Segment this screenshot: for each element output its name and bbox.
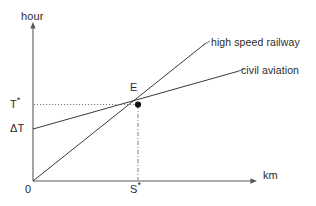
s-star-asterisk: * xyxy=(137,180,141,190)
x-axis-label: km xyxy=(263,169,278,181)
series-label-civil-aviation: civil aviation xyxy=(241,64,299,76)
t-star-asterisk: * xyxy=(17,95,21,105)
equilibrium-point-label: E xyxy=(130,81,137,93)
series-line-high-speed-railway xyxy=(33,43,206,181)
y-axis-label: hour xyxy=(21,10,43,22)
leader-line-high-speed-railway xyxy=(203,41,210,45)
y-axis-arrowhead xyxy=(30,22,35,29)
x-tick-label-s-star: S* xyxy=(130,183,141,195)
x-axis-arrowhead xyxy=(250,178,257,183)
y-tick-label-t-star: T* xyxy=(10,98,20,110)
y-tick-label-delta-t: ΔT xyxy=(10,122,24,134)
equilibrium-point-marker xyxy=(135,101,141,107)
origin-label: 0 xyxy=(25,183,31,195)
series-label-high-speed-railway: high speed railway xyxy=(211,36,300,48)
series-line-civil-aviation xyxy=(33,71,239,129)
t-star-text: T xyxy=(10,98,17,110)
chart-figure: hour km 0 T* ΔT S* E high speed railway … xyxy=(0,0,316,206)
